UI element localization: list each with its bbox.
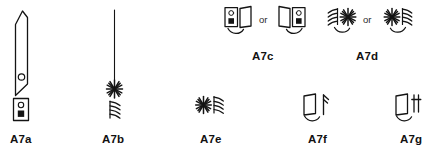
- wavy-rays-icon: [214, 97, 223, 114]
- or-separator-a7d: or: [363, 15, 371, 25]
- arrow-post-icon: [324, 95, 329, 115]
- symbol-a7e: [193, 95, 227, 123]
- swing-arc: [305, 116, 320, 121]
- detector-square-icon: [296, 18, 302, 24]
- detector-circle-icon: [296, 11, 301, 16]
- starburst-icon: [107, 80, 123, 98]
- or-separator-a7c: or: [259, 15, 267, 25]
- cross-barred-post-icon: [412, 95, 421, 112]
- starburst-icon: [196, 97, 212, 114]
- wavy-rays-icon: [110, 101, 120, 118]
- starburst-icon: [340, 9, 356, 26]
- symbol-label-a7c: A7c: [252, 51, 274, 63]
- swing-arc: [390, 28, 405, 33]
- symbol-a7b-glyph: [96, 8, 140, 124]
- blade-outline: [16, 11, 28, 96]
- detector-square-icon: [228, 18, 234, 24]
- symbol-label-a7e: A7e: [200, 134, 222, 146]
- swing-arc: [397, 116, 412, 121]
- symbol-a7d-variant-left: [325, 5, 361, 41]
- symbol-label-a7a: A7a: [10, 134, 32, 146]
- symbol-a7e-glyph: [193, 95, 227, 123]
- symbol-legend-sheet: A7a A: [0, 0, 432, 155]
- symbol-a7d-left-glyph: [325, 5, 361, 41]
- symbol-a7g-glyph: [393, 92, 427, 124]
- symbol-a7c-right-glyph: [275, 5, 307, 41]
- swing-arc: [335, 28, 350, 33]
- symbol-a7c-left-glyph: [223, 5, 255, 41]
- symbol-a7f-glyph: [301, 92, 337, 124]
- symbol-a7d-variant-right: [379, 5, 415, 41]
- symbol-label-a7d: A7d: [356, 51, 378, 63]
- symbol-label-a7b: A7b: [102, 134, 124, 146]
- detector-circle-icon: [229, 11, 234, 16]
- swing-panel: [240, 7, 251, 28]
- swing-panel: [304, 94, 316, 115]
- symbol-a7g: [393, 92, 427, 124]
- port-circle-icon: [18, 74, 24, 80]
- symbol-label-a7f: A7f: [308, 134, 327, 146]
- symbol-a7f: [301, 92, 337, 124]
- symbol-a7d-right-glyph: [379, 5, 415, 41]
- swing-panel: [279, 7, 290, 28]
- detector-square-icon: [18, 111, 24, 117]
- wavy-rays-icon: [403, 9, 412, 26]
- detector-circle-icon: [18, 102, 23, 107]
- symbol-a7a-glyph: [6, 8, 46, 124]
- swing-arc: [287, 29, 303, 34]
- symbol-label-a7g: A7g: [400, 134, 422, 146]
- swing-panel: [396, 94, 408, 115]
- swing-arc: [228, 29, 244, 34]
- symbol-a7c-variant-left: [223, 5, 255, 41]
- symbol-a7b: [96, 8, 140, 124]
- wavy-rays-icon: [328, 9, 337, 26]
- symbol-a7a: [6, 8, 46, 124]
- starburst-icon: [384, 9, 400, 26]
- symbol-a7c-variant-right: [275, 5, 307, 41]
